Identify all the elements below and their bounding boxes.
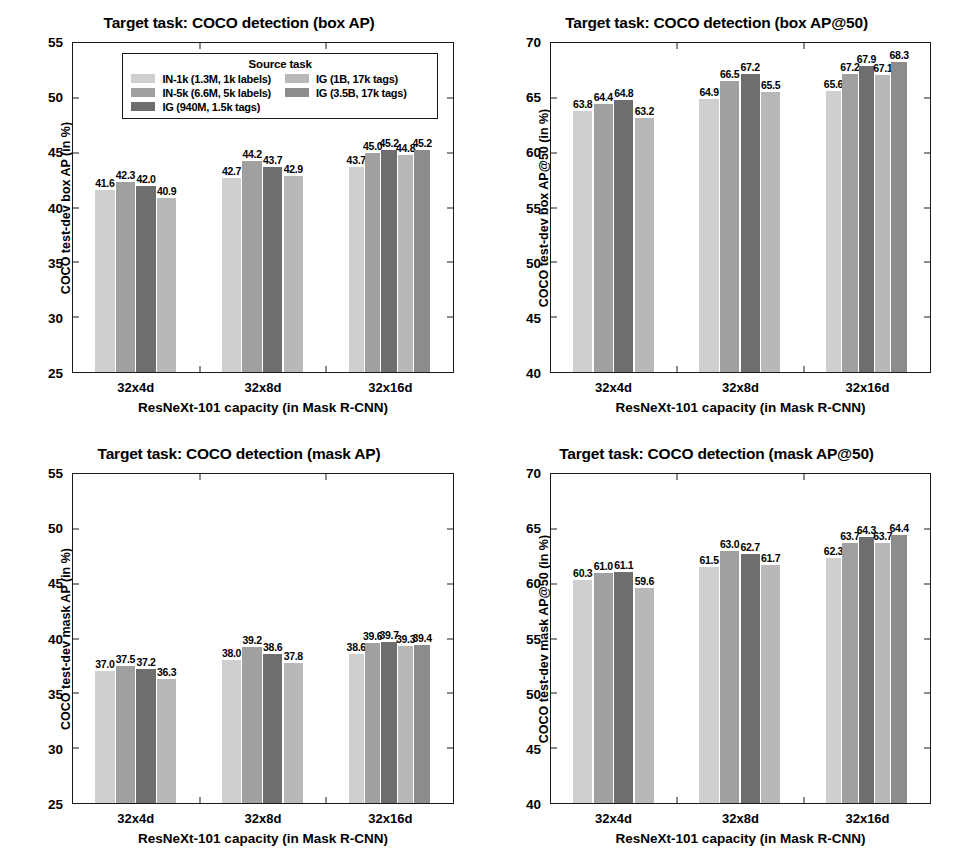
panel-mask-ap50: Target task: COCO detection (mask AP@50)… — [478, 431, 955, 862]
bar-value-label: 38.6 — [347, 641, 366, 653]
y-tick-label: 35 — [48, 686, 72, 701]
bar: 64.8 — [614, 100, 633, 372]
legend-columns: IN-1k (1.3M, 1k labels)IN-5k (6.6M, 5k l… — [131, 73, 428, 113]
x-tick-label: 32x8d — [245, 811, 282, 826]
y-tick-label: 50 — [48, 521, 72, 536]
bar: 67.2 — [741, 74, 760, 372]
bar-value-label: 38.0 — [222, 647, 241, 659]
legend-column-left: IN-1k (1.3M, 1k labels)IN-5k (6.6M, 5k l… — [131, 73, 271, 113]
y-tick-mark — [447, 317, 453, 318]
y-tick-label: 40 — [48, 631, 72, 646]
panel-title: Target task: COCO detection (mask AP@50) — [478, 445, 955, 463]
panel-box-ap50: Target task: COCO detection (box AP@50) … — [478, 0, 955, 431]
x-tick-mark — [803, 366, 804, 372]
plot-box: 60.361.061.159.661.563.062.761.762.363.7… — [550, 473, 931, 804]
bar: 61.7 — [761, 565, 780, 803]
x-tick-mark — [803, 43, 804, 49]
y-tick-mark — [924, 583, 930, 584]
bar-value-label: 61.7 — [761, 552, 780, 564]
x-tick-label: 32x8d — [245, 380, 282, 395]
y-tick-mark — [447, 528, 453, 529]
bar-value-label: 62.3 — [824, 545, 843, 557]
bar: 45.2 — [381, 150, 396, 372]
x-tick-label: 32x4d — [595, 380, 632, 395]
bar-value-label: 64.8 — [614, 87, 633, 99]
x-axis-label: ResNeXt-101 capacity (in Mask R-CNN) — [550, 831, 931, 846]
bar: 63.0 — [720, 551, 739, 803]
bar: 39.6 — [365, 643, 380, 803]
x-tick-label: 32x16d — [368, 380, 412, 395]
y-tick-label: 45 — [48, 145, 72, 160]
y-tick-mark — [73, 152, 79, 153]
y-tick-mark — [73, 693, 79, 694]
legend-item[interactable]: IN-1k (1.3M, 1k labels) — [131, 73, 271, 85]
y-tick-mark — [73, 748, 79, 749]
legend-item-label: IG (3.5B, 17k tags) — [316, 87, 407, 99]
y-tick-label: 35 — [48, 255, 72, 270]
plot-area: COCO test-dev mask AP (in %) 37.037.537.… — [72, 473, 454, 804]
bar: 37.2 — [136, 669, 155, 803]
y-tick-mark — [447, 97, 453, 98]
x-tick-label: 32x16d — [368, 811, 412, 826]
y-tick-mark — [924, 97, 930, 98]
y-tick-mark — [73, 207, 79, 208]
x-tick-label: 32x4d — [117, 811, 154, 826]
bar: 40.9 — [157, 198, 176, 372]
y-tick-mark — [73, 97, 79, 98]
legend-item-label: IN-5k (6.6M, 5k labels) — [162, 87, 271, 99]
bar-value-label: 42.0 — [136, 173, 155, 185]
x-tick-mark — [326, 797, 327, 803]
y-tick-label: 25 — [48, 366, 72, 381]
y-tick-mark — [551, 152, 557, 153]
y-tick-label: 40 — [526, 366, 550, 381]
y-tick-mark — [551, 693, 557, 694]
bar: 39.4 — [414, 645, 429, 803]
bar-value-label: 63.8 — [573, 98, 592, 110]
x-tick-mark — [199, 474, 200, 480]
bar: 42.3 — [116, 182, 135, 372]
bar: 59.6 — [635, 588, 654, 803]
bar-value-label: 38.6 — [263, 641, 282, 653]
y-tick-mark — [551, 207, 557, 208]
legend-item-label: IN-1k (1.3M, 1k labels) — [162, 73, 271, 85]
bar: 43.7 — [349, 167, 364, 372]
y-tick-mark — [551, 748, 557, 749]
bar-value-label: 43.7 — [347, 154, 366, 166]
bar-value-label: 61.5 — [699, 554, 718, 566]
y-tick-label: 45 — [526, 310, 550, 325]
legend-column-right: IG (1B, 17k tags)IG (3.5B, 17k tags) — [285, 73, 407, 113]
x-axis-label: ResNeXt-101 capacity (in Mask R-CNN) — [550, 400, 931, 415]
bar-value-label: 64.4 — [594, 91, 613, 103]
legend-item[interactable]: IG (1B, 17k tags) — [285, 73, 407, 85]
y-tick-label: 55 — [48, 466, 72, 481]
plot-box: 37.037.537.236.338.039.238.637.838.639.6… — [72, 473, 454, 804]
x-tick-mark — [199, 366, 200, 372]
y-tick-label: 65 — [526, 90, 550, 105]
y-tick-mark — [924, 748, 930, 749]
x-axis-label: ResNeXt-101 capacity (in Mask R-CNN) — [72, 400, 454, 415]
y-tick-label: 50 — [48, 90, 72, 105]
bar: 38.0 — [222, 660, 241, 803]
bar: 37.0 — [95, 671, 114, 803]
legend-item[interactable]: IN-5k (6.6M, 5k labels) — [131, 87, 271, 99]
legend: Source taskIN-1k (1.3M, 1k labels)IN-5k … — [122, 53, 437, 119]
bar-value-label: 42.9 — [284, 163, 303, 175]
y-tick-mark — [924, 317, 930, 318]
bar: 43.7 — [263, 167, 282, 372]
panel-mask-ap: Target task: COCO detection (mask AP) CO… — [0, 431, 478, 862]
y-tick-mark — [551, 317, 557, 318]
bar: 38.6 — [349, 654, 364, 803]
y-tick-label: 45 — [526, 741, 550, 756]
bar: 61.5 — [699, 567, 718, 803]
legend-item[interactable]: IG (3.5B, 17k tags) — [285, 87, 407, 99]
y-tick-label: 50 — [526, 686, 550, 701]
y-tick-mark — [551, 262, 557, 263]
plot-box: 41.642.342.040.942.744.243.742.943.745.0… — [72, 42, 454, 373]
legend-item[interactable]: IG (940M, 1.5k tags) — [131, 101, 271, 113]
legend-swatch-icon — [131, 88, 155, 97]
x-axis-label: ResNeXt-101 capacity (in Mask R-CNN) — [72, 831, 454, 846]
y-tick-label: 45 — [48, 576, 72, 591]
bar: 65.6 — [826, 91, 841, 372]
bar-value-label: 60.3 — [573, 567, 592, 579]
y-tick-mark — [551, 97, 557, 98]
